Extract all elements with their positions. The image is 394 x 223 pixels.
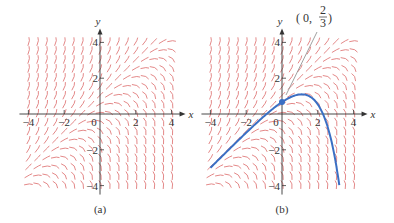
slope-segment bbox=[54, 73, 56, 81]
x-tick-label: 0 bbox=[91, 116, 97, 128]
slope-segment bbox=[126, 163, 128, 171]
slope-segment bbox=[299, 181, 301, 189]
slope-segment bbox=[28, 82, 30, 91]
slope-segment bbox=[227, 91, 229, 99]
slope-segment bbox=[117, 37, 120, 45]
slope-segment bbox=[170, 82, 173, 90]
slope-segment bbox=[152, 100, 155, 108]
slope-segment bbox=[51, 165, 59, 169]
slope-segment bbox=[171, 136, 173, 145]
slope-segment bbox=[42, 166, 51, 167]
slope-segment bbox=[218, 109, 220, 117]
x-axis-arrow-icon bbox=[362, 112, 368, 117]
slope-segment bbox=[81, 82, 84, 90]
slope-segment bbox=[254, 181, 257, 189]
slope-segment bbox=[33, 183, 41, 187]
slope-segment bbox=[263, 46, 265, 54]
x-axis-arrow-icon bbox=[180, 112, 186, 117]
slope-segment bbox=[81, 181, 84, 189]
slope-segment bbox=[317, 172, 319, 181]
slope-segment bbox=[254, 55, 256, 63]
slope-segment bbox=[81, 37, 83, 45]
slope-segment bbox=[335, 118, 337, 126]
slope-segment bbox=[269, 129, 277, 133]
slope-segment bbox=[60, 138, 68, 142]
slope-segment bbox=[53, 181, 58, 188]
slope-segment bbox=[117, 154, 119, 162]
slope-segment bbox=[344, 127, 346, 135]
slope-segment bbox=[36, 136, 40, 144]
slope-segment bbox=[46, 64, 48, 73]
slope-segment bbox=[162, 163, 164, 172]
slope-segment bbox=[61, 164, 67, 170]
slope-segment bbox=[152, 91, 156, 99]
slope-segment bbox=[326, 154, 328, 163]
slope-segment bbox=[317, 181, 319, 189]
slope-segment bbox=[317, 145, 319, 153]
slope-segment bbox=[335, 127, 337, 135]
axes-a: xy−4−202442−2−4 bbox=[19, 15, 193, 194]
slope-segment bbox=[169, 65, 174, 72]
slope-segment bbox=[209, 136, 212, 144]
slope-segment bbox=[253, 110, 258, 117]
slope-segment bbox=[171, 154, 173, 163]
slope-segment bbox=[153, 136, 155, 144]
slope-segment bbox=[224, 174, 232, 178]
slope-segment bbox=[289, 74, 294, 81]
slope-segment bbox=[52, 137, 58, 143]
slope-segment bbox=[226, 127, 230, 135]
slope-segment bbox=[351, 56, 357, 62]
slope-segment bbox=[353, 180, 355, 189]
slope-segment bbox=[63, 82, 65, 90]
slope-segment bbox=[115, 74, 121, 80]
slope-segment bbox=[260, 130, 269, 131]
slope-segment bbox=[171, 180, 173, 189]
slope-segment bbox=[245, 55, 247, 63]
slope-segment bbox=[263, 55, 265, 63]
slope-segment bbox=[314, 85, 322, 89]
slope-segment bbox=[87, 111, 95, 115]
slope-segment bbox=[245, 82, 247, 90]
slope-segment bbox=[253, 163, 258, 170]
slope-segment bbox=[153, 127, 155, 135]
slope-segment bbox=[105, 93, 113, 97]
slope-segment bbox=[88, 137, 94, 143]
slope-segment bbox=[63, 46, 65, 55]
slope-segment bbox=[171, 145, 173, 153]
slope-segment bbox=[236, 91, 238, 99]
slope-segment bbox=[210, 100, 212, 108]
slope-segment bbox=[162, 172, 164, 181]
slope-segment bbox=[227, 100, 229, 108]
slope-segment bbox=[296, 84, 304, 88]
slope-segment bbox=[170, 74, 174, 82]
slope-segment bbox=[219, 64, 221, 73]
slope-segment bbox=[117, 172, 119, 180]
slope-segment bbox=[272, 64, 275, 72]
y-tick-label: −2 bbox=[86, 144, 98, 156]
slope-segment bbox=[78, 130, 87, 131]
slope-segment bbox=[262, 163, 266, 171]
slope-segment bbox=[317, 136, 319, 144]
slope-segment bbox=[324, 92, 329, 99]
slope-segment bbox=[351, 65, 356, 72]
slope-segment bbox=[79, 110, 85, 116]
slope-segment bbox=[108, 46, 111, 54]
slope-segment bbox=[225, 182, 231, 188]
slope-segment bbox=[332, 67, 340, 71]
slope-segment bbox=[153, 145, 155, 153]
slope-segment bbox=[254, 46, 256, 55]
point-label-prefix: 0, bbox=[303, 11, 312, 25]
slope-segment bbox=[335, 136, 337, 144]
slope-segment bbox=[245, 100, 248, 108]
slope-segment bbox=[43, 146, 49, 152]
slope-segment bbox=[287, 103, 296, 104]
slope-segment bbox=[37, 55, 39, 64]
slope-segment bbox=[161, 100, 164, 108]
slope-segment bbox=[224, 166, 233, 167]
slope-segment bbox=[335, 145, 337, 153]
y-tick-label: 2 bbox=[93, 72, 99, 84]
slope-segment bbox=[171, 172, 173, 181]
y-tick-label: 2 bbox=[275, 72, 281, 84]
slope-segment bbox=[297, 74, 303, 80]
slope-segment bbox=[272, 55, 274, 63]
